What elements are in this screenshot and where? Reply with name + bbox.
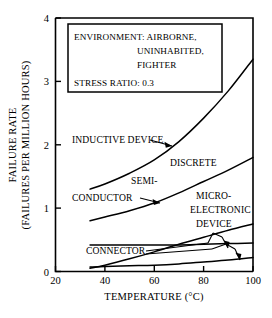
annotation-device: DEVICE — [196, 218, 232, 229]
failure-rate-vs-temperature-chart: 0 1 2 3 4 20 40 60 80 100 TEMPERATURE (°… — [0, 0, 272, 318]
annotation-connector: CONNECTOR — [86, 245, 146, 256]
y-tick-label-0: 0 — [44, 267, 49, 278]
y-tick-label-2: 2 — [44, 140, 49, 151]
annotation-electronic: ELECTRONIC — [190, 204, 251, 215]
annotation-semi: SEMI- — [131, 175, 158, 186]
y-tick-label-1: 1 — [44, 203, 49, 214]
y-axis-label-line1: FAILURE RATE — [7, 108, 18, 183]
x-tick-label-100: 100 — [245, 275, 261, 286]
annotation-discrete: DISCRETE — [170, 157, 217, 168]
info-box-line1: ENVIRONMENT: AIRBORNE, — [74, 32, 197, 42]
info-box-line2: UNINHABITED, — [137, 46, 204, 56]
info-box-line3: FIGHTER — [137, 60, 177, 70]
y-axis-label-line2: (FAILURES PER MILLION HOURS) — [20, 60, 32, 229]
chart-figure: 0 1 2 3 4 20 40 60 80 100 TEMPERATURE (°… — [0, 0, 272, 318]
info-box: ENVIRONMENT: AIRBORNE, UNINHABITED, FIGH… — [68, 24, 222, 92]
x-axis-label: TEMPERATURE (°C) — [104, 291, 204, 303]
x-tick-label-40: 40 — [100, 275, 111, 286]
annotation-conductor: CONDUCTOR — [72, 192, 133, 203]
x-tick-label-20: 20 — [50, 275, 61, 286]
y-tick-label-4: 4 — [44, 13, 50, 24]
annotation-micro: MICRO- — [196, 190, 231, 201]
info-box-line4: STRESS RATIO: 0.3 — [74, 78, 154, 88]
x-tick-label-80: 80 — [198, 275, 209, 286]
annotation-inductive-device: INDUCTIVE DEVICE — [72, 134, 163, 145]
y-tick-label-3: 3 — [44, 76, 49, 87]
x-tick-label-60: 60 — [149, 275, 160, 286]
